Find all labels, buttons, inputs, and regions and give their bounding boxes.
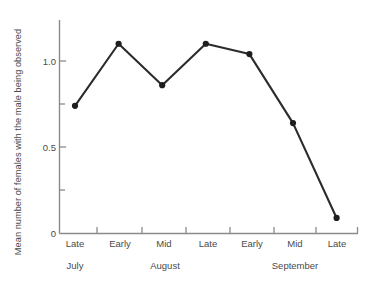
series-line xyxy=(75,44,337,218)
series-markers xyxy=(72,41,340,221)
x-category-label-4: Late xyxy=(199,238,218,249)
data-point-marker xyxy=(159,82,165,88)
x-category-label-3: Mid xyxy=(156,238,171,249)
x-category-label-7: Late xyxy=(328,238,347,249)
y-axis-ticks xyxy=(60,61,67,190)
x-category-label-5: Early xyxy=(241,238,263,249)
x-axis-ticks xyxy=(97,227,358,234)
x-category-label-1: Late xyxy=(66,238,85,249)
x-group-label-september: September xyxy=(272,260,318,271)
x-category-label-2: Early xyxy=(109,238,131,249)
plot-area xyxy=(0,0,375,283)
data-point-marker xyxy=(290,120,296,126)
data-point-marker xyxy=(203,41,209,47)
x-group-label-august: August xyxy=(150,260,180,271)
chart-figure: Mean number of females with the male bei… xyxy=(0,0,375,283)
data-point-marker xyxy=(72,103,78,109)
x-category-label-6: Mid xyxy=(287,238,302,249)
data-point-marker xyxy=(334,215,340,221)
x-group-label-july: July xyxy=(67,260,84,271)
data-point-marker xyxy=(116,41,122,47)
data-point-marker xyxy=(246,51,252,57)
